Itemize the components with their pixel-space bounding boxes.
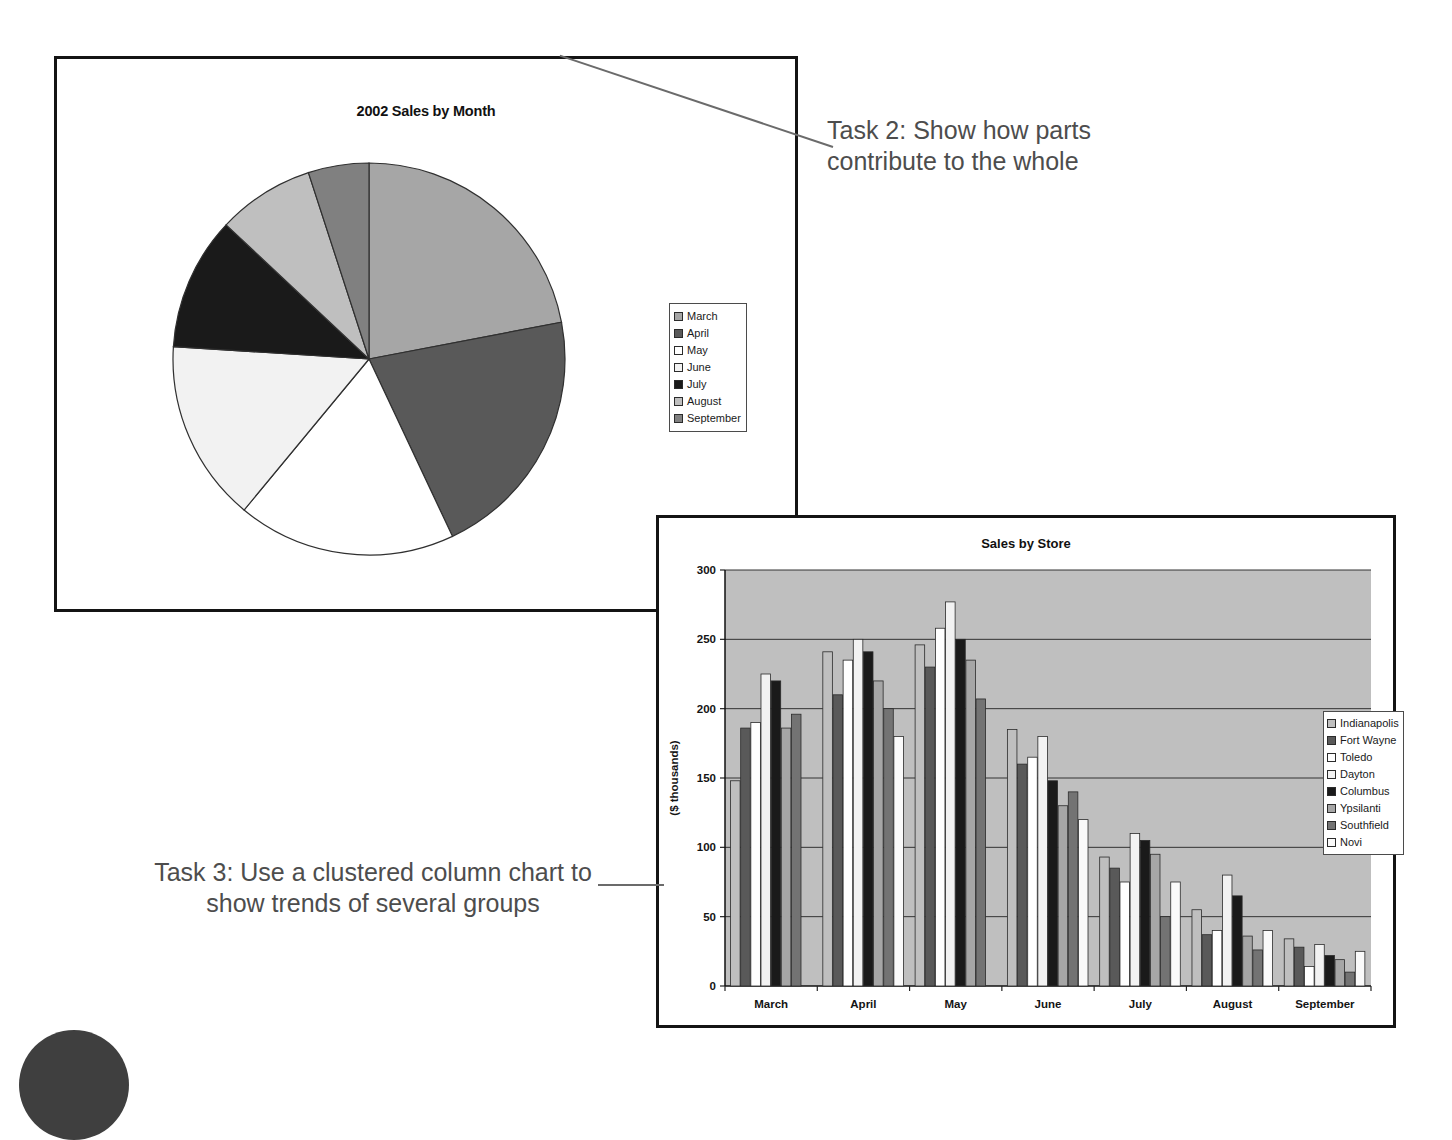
bar-column[interactable] xyxy=(751,723,761,986)
pie-legend-label: May xyxy=(687,345,708,356)
bar-column[interactable] xyxy=(935,628,945,986)
bar-column[interactable] xyxy=(1058,806,1068,986)
legend-swatch-icon xyxy=(674,363,683,372)
bar-column[interactable] xyxy=(863,652,873,986)
pie-chart-legend: MarchAprilMayJuneJulyAugustSeptember xyxy=(669,303,747,432)
bar-column[interactable] xyxy=(791,714,801,986)
bar-column[interactable] xyxy=(1335,960,1345,986)
task-3-annotation: Task 3: Use a clustered column chart to … xyxy=(128,857,618,919)
legend-swatch-icon xyxy=(674,346,683,355)
bar-column[interactable] xyxy=(1100,857,1110,986)
bar-column[interactable] xyxy=(1140,840,1150,986)
bar-column[interactable] xyxy=(1018,764,1028,986)
bar-column[interactable] xyxy=(1192,910,1202,986)
bar-column[interactable] xyxy=(771,681,781,986)
bar-legend-item[interactable]: Fort Wayne xyxy=(1327,732,1399,749)
bar-column[interactable] xyxy=(1202,935,1212,986)
x-tick-label: March xyxy=(754,998,788,1010)
bar-column[interactable] xyxy=(976,699,986,986)
bar-column[interactable] xyxy=(1233,896,1243,986)
bar-legend-item[interactable]: Ypsilanti xyxy=(1327,800,1399,817)
bar-column[interactable] xyxy=(1243,936,1253,986)
bar-column[interactable] xyxy=(915,645,925,986)
pie-legend-item[interactable]: March xyxy=(674,308,741,325)
bar-column[interactable] xyxy=(1345,972,1355,986)
pie-legend-item[interactable]: April xyxy=(674,325,741,342)
x-tick-label: July xyxy=(1129,998,1153,1010)
legend-swatch-icon xyxy=(1327,821,1336,830)
bar-column[interactable] xyxy=(823,652,833,986)
legend-swatch-icon xyxy=(1327,838,1336,847)
bar-column[interactable] xyxy=(966,660,976,986)
bar-column[interactable] xyxy=(1222,875,1232,986)
bar-column[interactable] xyxy=(1284,939,1294,986)
bar-column[interactable] xyxy=(1263,931,1273,986)
bar-column[interactable] xyxy=(1110,868,1120,986)
pie-legend-item[interactable]: July xyxy=(674,376,741,393)
bar-legend-item[interactable]: Southfield xyxy=(1327,817,1399,834)
bar-column[interactable] xyxy=(1161,917,1171,986)
bar-column[interactable] xyxy=(1150,854,1160,986)
bar-svg: 050100150200250300($ thousands)MarchApri… xyxy=(663,562,1393,1024)
bar-column[interactable] xyxy=(884,709,894,986)
bar-column[interactable] xyxy=(1078,820,1088,986)
y-tick-label: 300 xyxy=(697,564,716,576)
bar-legend-label: Dayton xyxy=(1340,769,1375,780)
bar-legend-item[interactable]: Indianapolis xyxy=(1327,715,1399,732)
bar-column[interactable] xyxy=(853,639,863,986)
bar-column[interactable] xyxy=(1171,882,1181,986)
bar-legend-item[interactable]: Novi xyxy=(1327,834,1399,851)
bar-column[interactable] xyxy=(1068,792,1078,986)
bar-column[interactable] xyxy=(874,681,884,986)
bar-column[interactable] xyxy=(1028,757,1038,986)
y-tick-label: 50 xyxy=(703,911,716,923)
pie-legend-label: June xyxy=(687,362,711,373)
pie-legend-item[interactable]: June xyxy=(674,359,741,376)
legend-swatch-icon xyxy=(674,312,683,321)
bar-column[interactable] xyxy=(894,736,904,986)
bar-legend-label: Fort Wayne xyxy=(1340,735,1396,746)
pie-legend-label: August xyxy=(687,396,721,407)
bar-legend-label: Ypsilanti xyxy=(1340,803,1381,814)
bar-column[interactable] xyxy=(731,781,741,986)
bar-column[interactable] xyxy=(741,728,751,986)
bar-column[interactable] xyxy=(781,728,791,986)
y-tick-label: 150 xyxy=(697,772,716,784)
pie-legend-item[interactable]: September xyxy=(674,410,741,427)
bar-column[interactable] xyxy=(925,667,935,986)
bar-column[interactable] xyxy=(1038,736,1048,986)
stray-mark xyxy=(1403,1036,1408,1045)
y-tick-label: 0 xyxy=(710,980,716,992)
bar-column[interactable] xyxy=(956,639,966,986)
bar-column[interactable] xyxy=(1294,947,1304,986)
pie-legend-item[interactable]: May xyxy=(674,342,741,359)
bar-column[interactable] xyxy=(1212,931,1222,986)
bar-column[interactable] xyxy=(761,674,771,986)
legend-swatch-icon xyxy=(674,329,683,338)
bar-column[interactable] xyxy=(1355,951,1365,986)
legend-swatch-icon xyxy=(1327,753,1336,762)
pie-legend-item[interactable]: August xyxy=(674,393,741,410)
bar-column[interactable] xyxy=(833,695,843,986)
bar-column[interactable] xyxy=(843,660,853,986)
bar-column[interactable] xyxy=(946,602,956,986)
bar-column[interactable] xyxy=(1007,729,1017,986)
pie-legend-label: April xyxy=(687,328,709,339)
legend-swatch-icon xyxy=(674,380,683,389)
bar-column[interactable] xyxy=(1315,944,1325,986)
bar-column[interactable] xyxy=(1325,955,1335,986)
bar-column[interactable] xyxy=(1253,950,1263,986)
bar-legend-item[interactable]: Columbus xyxy=(1327,783,1399,800)
bar-column[interactable] xyxy=(1305,967,1315,986)
decorative-circle xyxy=(19,1030,129,1140)
bar-column[interactable] xyxy=(1130,833,1140,986)
bar-legend-item[interactable]: Toledo xyxy=(1327,749,1399,766)
bar-column[interactable] xyxy=(1048,781,1058,986)
bar-legend-item[interactable]: Dayton xyxy=(1327,766,1399,783)
pie-chart-title: 2002 Sales by Month xyxy=(57,103,795,119)
y-tick-label: 100 xyxy=(697,841,716,853)
bar-column[interactable] xyxy=(1120,882,1130,986)
x-tick-label: April xyxy=(850,998,876,1010)
bar-chart-legend: IndianapolisFort WayneToledoDaytonColumb… xyxy=(1323,711,1404,855)
y-tick-label: 200 xyxy=(697,703,716,715)
